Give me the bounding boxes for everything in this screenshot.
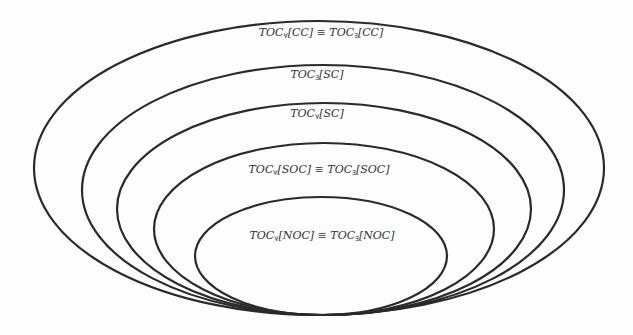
label-sc-exists: TOC∃[SC]: [290, 68, 343, 85]
label-noc: TOC∀[NOC] ≡ TOC∃[NOC]: [249, 229, 394, 246]
label-text: [NOC]: [359, 229, 395, 242]
label-text: TOC: [290, 107, 315, 120]
label-cc: TOC∀[CC] ≡ TOC∃[CC]: [259, 26, 384, 43]
label-text: TOC: [249, 163, 274, 176]
ellipse-sc-forall: [117, 103, 531, 315]
label-text: TOC: [249, 229, 274, 242]
label-text: [CC]: [358, 26, 383, 39]
label-text: [SC]: [319, 68, 344, 81]
label-soc: TOC∀[SOC] ≡ TOC∃[SOC]: [249, 163, 390, 180]
label-text: [SOC]: [356, 163, 390, 176]
label-text: [NOC] ≡ TOC: [278, 229, 355, 242]
nested-ellipse-diagram: TOC∀[CC] ≡ TOC∃[CC] TOC∃[SC] TOC∀[SC] TO…: [0, 0, 633, 335]
label-text: [SOC] ≡ TOC: [278, 163, 353, 176]
label-text: [SC]: [319, 107, 344, 120]
label-text: TOC: [259, 26, 284, 39]
label-text: TOC: [290, 68, 315, 81]
ellipse-noc: [195, 197, 447, 315]
label-sc-forall: TOC∀[SC]: [290, 107, 344, 124]
label-text: [CC] ≡ TOC: [288, 26, 354, 39]
